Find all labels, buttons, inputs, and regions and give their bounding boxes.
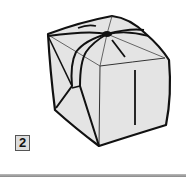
step-number-badge: 2 <box>15 135 30 151</box>
bottom-divider <box>0 174 186 177</box>
knot-icon <box>102 31 112 37</box>
